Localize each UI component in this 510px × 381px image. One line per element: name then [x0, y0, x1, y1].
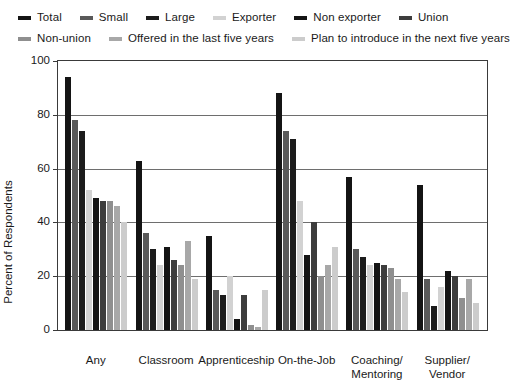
- bar: [466, 279, 472, 330]
- bar: [367, 265, 373, 330]
- legend-item: Large: [146, 11, 195, 24]
- bar: [227, 276, 233, 330]
- legend-label: Union: [418, 11, 449, 24]
- bar: [431, 306, 437, 330]
- bar: [360, 257, 366, 330]
- legend-swatch-icon: [213, 16, 226, 20]
- legend-swatch-icon: [18, 16, 31, 20]
- x-tick-label: Classroom: [139, 354, 194, 368]
- legend-label: Large: [165, 11, 195, 24]
- bar: [220, 295, 226, 330]
- x-tick-label: Coaching/ Mentoring: [351, 354, 403, 381]
- y-axis-title-text: Percent of Respondents: [2, 162, 14, 322]
- bar: [114, 206, 120, 330]
- y-tick-label: 40: [37, 215, 50, 227]
- legend-swatch-icon: [146, 16, 159, 20]
- bar: [171, 260, 177, 330]
- bar: [452, 276, 458, 330]
- bar: [346, 177, 352, 330]
- x-tick-label: On-the-Job: [278, 354, 336, 368]
- group-spacer: [128, 329, 135, 330]
- bar: [65, 77, 71, 330]
- bar: [206, 236, 212, 330]
- group-spacer: [269, 329, 276, 330]
- y-tick-mark: [53, 330, 58, 331]
- bar: [178, 265, 184, 330]
- group-spacer: [199, 329, 206, 330]
- bar: [100, 201, 106, 330]
- bar: [438, 287, 444, 330]
- bar-group: [346, 61, 409, 330]
- legend-item: Offered in the last five years: [109, 32, 274, 45]
- legend-item: Plan to introduce in the next five years: [292, 32, 510, 45]
- bar: [297, 201, 303, 330]
- bar: [402, 292, 408, 330]
- plot-area: Percent of Respondents 020406080100 AnyC…: [0, 52, 492, 381]
- legend-swatch-icon: [80, 16, 93, 20]
- bar: [86, 190, 92, 330]
- legend-swatch-icon: [399, 16, 412, 20]
- legend-item: Exporter: [213, 11, 276, 24]
- legend-label: Exporter: [232, 11, 276, 24]
- legend-swatch-icon: [292, 37, 305, 41]
- legend-label: Plan to introduce in the next five years: [311, 32, 510, 45]
- y-tick-label: 80: [37, 108, 50, 120]
- y-tick-label: 60: [37, 162, 50, 174]
- bar: [424, 279, 430, 330]
- bar-group: [65, 61, 128, 330]
- bar: [290, 139, 296, 330]
- legend-item: Small: [80, 11, 128, 24]
- legend-label: Non-union: [37, 32, 91, 45]
- bar: [248, 325, 254, 330]
- bar: [157, 265, 163, 330]
- bar: [136, 161, 142, 330]
- y-axis-tick-labels: 020406080100: [18, 52, 54, 337]
- bar: [332, 247, 338, 330]
- x-tick-label: Apprenticeship: [198, 354, 274, 368]
- bar: [79, 131, 85, 330]
- axes-frame: [57, 60, 488, 331]
- bar: [93, 198, 99, 330]
- bar: [283, 131, 289, 330]
- legend-item: Total: [18, 11, 62, 24]
- legend-label: Total: [37, 11, 62, 24]
- bar: [192, 279, 198, 330]
- legend-item: Union: [399, 11, 449, 24]
- bar-group: [276, 61, 339, 330]
- bar: [473, 303, 479, 330]
- legend-swatch-icon: [18, 37, 31, 41]
- bar: [374, 263, 380, 330]
- bar: [417, 185, 423, 330]
- legend-swatch-icon: [109, 37, 122, 41]
- y-tick-label: 100: [31, 54, 50, 66]
- bar: [150, 249, 156, 330]
- bar: [72, 120, 78, 330]
- bar: [262, 290, 268, 330]
- group-spacer: [58, 329, 65, 330]
- legend-item: Non-union: [18, 32, 91, 45]
- x-axis-tick-labels: AnyClassroomApprenticeshipOn-the-JobCoac…: [57, 336, 486, 381]
- bar: [388, 268, 394, 330]
- bar-group: [136, 61, 199, 330]
- chart-legend: TotalSmallLargeExporterNon exporterUnion…: [0, 0, 492, 52]
- legend-row-2: Non-unionOffered in the last five yearsP…: [12, 28, 486, 49]
- bar-group: [417, 61, 480, 330]
- group-spacer: [409, 329, 416, 330]
- bar-series-container: [58, 61, 487, 330]
- bar: [353, 249, 359, 330]
- legend-label: Small: [99, 11, 128, 24]
- group-spacer: [339, 329, 346, 330]
- bar: [459, 298, 465, 330]
- bar: [241, 295, 247, 330]
- bar: [276, 93, 282, 330]
- x-tick-label: Supplier/ Vendor: [425, 354, 470, 381]
- x-tick-label: Any: [86, 354, 106, 368]
- bar: [255, 327, 261, 330]
- bar: [381, 265, 387, 330]
- bar: [234, 319, 240, 330]
- bar: [143, 233, 149, 330]
- legend-label: Non exporter: [313, 11, 381, 24]
- bar: [164, 247, 170, 330]
- bar: [325, 265, 331, 330]
